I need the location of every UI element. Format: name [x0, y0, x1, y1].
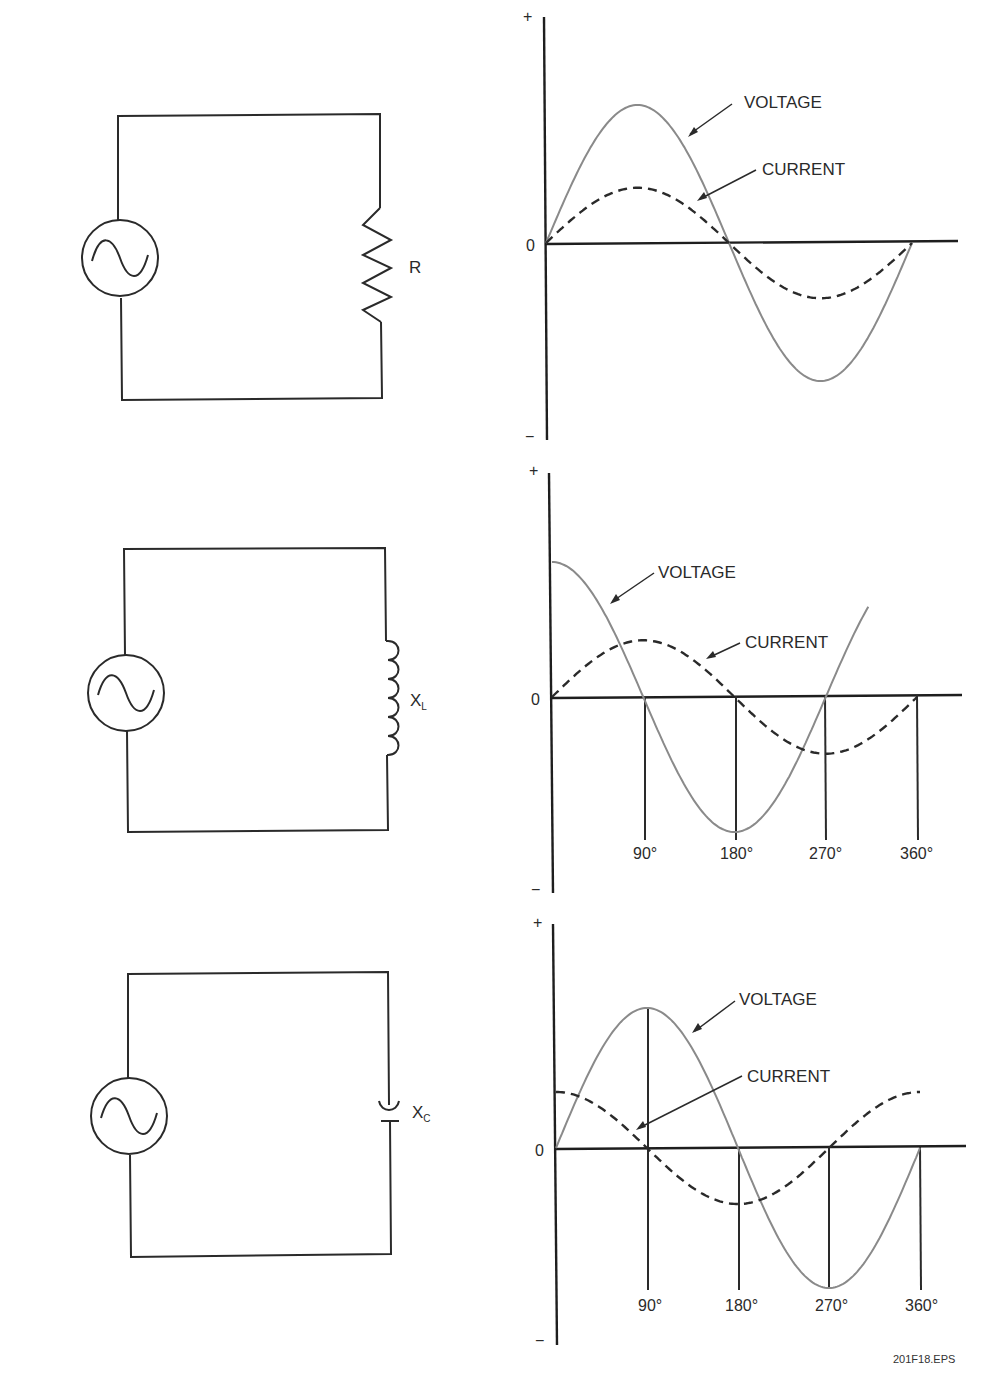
capacitor-label: XC — [412, 1103, 431, 1124]
x-axis — [556, 1146, 966, 1149]
zero-label: 0 — [535, 1142, 544, 1159]
voltage-leader-arrow — [613, 573, 654, 601]
tick-label-180: 180° — [720, 845, 753, 862]
tick-360 — [920, 1147, 921, 1290]
arrowhead-icon — [692, 1023, 702, 1033]
figure-canvas: R + − 0 VOLTAGE CURRENT XL + − 0 — [0, 0, 994, 1374]
arrowhead-icon — [697, 192, 707, 201]
top-wire — [118, 114, 380, 220]
current-label: CURRENT — [762, 160, 845, 179]
tick-label-360: 360° — [905, 1297, 938, 1314]
current-label: CURRENT — [745, 633, 828, 652]
resistor-icon — [363, 208, 391, 322]
axis-minus-label: − — [535, 1332, 544, 1349]
top-wire — [124, 548, 386, 655]
voltage-label: VOLTAGE — [658, 563, 736, 582]
tick-label-360: 360° — [900, 845, 933, 862]
tick-360 — [917, 695, 918, 840]
inductor-label: XL — [410, 691, 427, 712]
graph-inductive: + − 0 VOLTAGE CURRENT 90° 180° 270° 360° — [529, 462, 962, 898]
resistor-label: R — [409, 258, 421, 277]
bottom-wire — [127, 731, 388, 832]
axis-plus-label: + — [533, 914, 542, 931]
tick-label-270: 270° — [809, 845, 842, 862]
bottom-wire — [121, 298, 382, 400]
ac-source-icon — [82, 220, 158, 296]
graph-capacitive: + − 0 VOLTAGE CURRENT 90° 180° 270° 360° — [533, 914, 966, 1349]
figure-id: 201F18.EPS — [893, 1353, 955, 1365]
y-axis — [553, 924, 557, 1345]
axis-plus-label: + — [523, 8, 532, 25]
x-axis — [546, 241, 958, 244]
axis-plus-label: + — [529, 462, 538, 479]
voltage-label: VOLTAGE — [739, 990, 817, 1009]
arrowhead-icon — [706, 651, 716, 659]
arrowhead-icon — [636, 1121, 646, 1130]
axis-minus-label: − — [525, 428, 534, 445]
current-label: CURRENT — [747, 1067, 830, 1086]
graph-resistive: + − 0 VOLTAGE CURRENT — [523, 8, 958, 445]
zero-label: 0 — [531, 691, 540, 708]
voltage-leader-arrow — [690, 104, 732, 134]
tick-label-90: 90° — [638, 1297, 662, 1314]
ac-source-icon — [91, 1078, 167, 1154]
circuit-inductive: XL — [88, 548, 427, 832]
zero-label: 0 — [526, 237, 535, 254]
x-axis — [552, 695, 962, 698]
tick-270 — [825, 696, 826, 840]
y-axis — [549, 473, 553, 893]
tick-label-90: 90° — [633, 845, 657, 862]
bottom-wire — [130, 1121, 391, 1257]
arrowhead-icon — [610, 594, 620, 604]
inductor-icon — [386, 641, 399, 755]
ac-source-icon — [88, 655, 164, 731]
voltage-leader-arrow — [695, 1001, 735, 1031]
tick-label-180: 180° — [725, 1297, 758, 1314]
voltage-label: VOLTAGE — [744, 93, 822, 112]
axis-minus-label: − — [531, 881, 540, 898]
top-wire — [128, 972, 389, 1105]
tick-label-270: 270° — [815, 1297, 848, 1314]
current-leader-arrow — [700, 170, 756, 199]
y-axis — [544, 17, 547, 440]
circuit-resistive: R — [82, 114, 421, 400]
circuit-capacitive: XC — [91, 972, 431, 1257]
